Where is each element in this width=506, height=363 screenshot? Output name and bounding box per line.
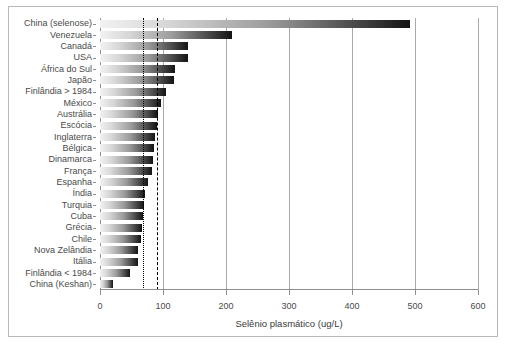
x-tick-label-200: 200 — [218, 301, 233, 311]
x-tick-500 — [415, 290, 416, 295]
gridline-600 — [478, 18, 479, 290]
x-tick-label-0: 0 — [97, 301, 102, 311]
y-tick — [93, 58, 96, 59]
y-tick — [93, 46, 96, 47]
x-tick-100 — [163, 290, 164, 295]
bar-china-selenose — [100, 20, 410, 28]
bar-fran-a — [100, 167, 152, 175]
y-label-cuba: Cuba — [70, 211, 92, 222]
bar-china-keshan — [100, 280, 113, 288]
bar-turquia — [100, 201, 144, 209]
x-tick-label-600: 600 — [470, 301, 485, 311]
y-tick — [93, 80, 96, 81]
y-label-china-keshan: China (Keshan) — [29, 279, 92, 290]
x-tick-200 — [226, 290, 227, 295]
x-tick-0 — [100, 290, 101, 295]
y-label-chile: Chile — [71, 234, 92, 245]
bar-m-xico — [100, 99, 161, 107]
bar-esc-cia — [100, 122, 157, 130]
bar-austr-lia — [100, 110, 158, 118]
y-label-nova-zel-ndia: Nova Zelândia — [34, 245, 92, 256]
y-tick — [93, 273, 96, 274]
y-label-dinamarca: Dinamarca — [48, 154, 92, 165]
y-tick — [93, 114, 96, 115]
y-tick — [93, 228, 96, 229]
bar-inglaterra — [100, 133, 155, 141]
y-axis-category-labels: China (selenose)VenezuelaCanadáUSAÁfrica… — [8, 18, 96, 290]
y-tick — [93, 284, 96, 285]
bar-canad — [100, 42, 188, 50]
bar-cuba — [100, 212, 143, 220]
y-label-turquia: Turquia — [62, 200, 92, 211]
bar-finl-ndia-1984 — [100, 88, 166, 96]
bar-ndia — [100, 190, 145, 198]
y-tick — [93, 92, 96, 93]
y-tick — [93, 216, 96, 217]
bar-venezuela — [100, 31, 232, 39]
y-label-espanha: Espanha — [56, 177, 92, 188]
bar-finl-ndia-1984 — [100, 269, 130, 277]
figure-container: China (selenose)VenezuelaCanadáUSAÁfrica… — [0, 0, 506, 363]
x-tick-300 — [289, 290, 290, 295]
y-label-frica-do-sul: África do Sul — [41, 64, 92, 75]
x-tick-400 — [352, 290, 353, 295]
y-label-usa: USA — [73, 52, 92, 63]
x-tick-label-400: 400 — [344, 301, 359, 311]
bar-chile — [100, 235, 141, 243]
y-label-b-lgica: Bélgica — [62, 143, 92, 154]
bar-dinamarca — [100, 156, 153, 164]
y-label-venezuela: Venezuela — [50, 30, 92, 41]
y-tick — [93, 24, 96, 25]
bar-espanha — [100, 178, 148, 186]
y-tick — [93, 262, 96, 263]
x-tick-600 — [478, 290, 479, 295]
y-tick — [93, 35, 96, 36]
y-label-gr-cia: Grécia — [65, 222, 92, 233]
y-tick — [93, 194, 96, 195]
y-tick — [93, 160, 96, 161]
reference-line-dotted — [143, 18, 144, 290]
bar-nova-zel-ndia — [100, 246, 138, 254]
y-tick — [93, 137, 96, 138]
y-tick — [93, 69, 96, 70]
bar-jap-o — [100, 76, 174, 84]
y-label-inglaterra: Inglaterra — [54, 132, 92, 143]
bar-frica-do-sul — [100, 65, 175, 73]
y-tick — [93, 148, 96, 149]
bar-b-lgica — [100, 144, 154, 152]
y-label-jap-o: Japão — [67, 75, 92, 86]
bar-it-lia — [100, 258, 138, 266]
y-tick — [93, 239, 96, 240]
y-label-it-lia: Itália — [73, 256, 92, 267]
x-tick-label-100: 100 — [155, 301, 170, 311]
y-tick — [93, 205, 96, 206]
y-label-china-selenose: China (selenose) — [24, 18, 92, 29]
y-tick — [93, 126, 96, 127]
x-tick-label-500: 500 — [407, 301, 422, 311]
y-tick — [93, 171, 96, 172]
y-label-fran-a: França — [64, 166, 92, 177]
x-axis-title: Selênio plasmático (ug/L) — [100, 318, 478, 329]
y-label-finl-ndia-1984: Finlândia < 1984 — [25, 268, 92, 279]
reference-line-dashed — [157, 18, 158, 290]
y-label-finl-ndia-1984: Finlândia > 1984 — [25, 86, 92, 97]
y-label-canad: Canadá — [60, 41, 92, 52]
plot-area: 0100200300400500600 — [100, 18, 478, 290]
bar-gr-cia — [100, 224, 142, 232]
y-label-m-xico: México — [63, 98, 92, 109]
y-label-austr-lia: Austrália — [57, 109, 92, 120]
y-label-ndia: Índia — [72, 188, 92, 199]
y-tick — [93, 103, 96, 104]
x-tick-label-300: 300 — [281, 301, 296, 311]
y-tick — [93, 182, 96, 183]
y-label-esc-cia: Escócia — [60, 120, 92, 131]
y-tick — [93, 250, 96, 251]
